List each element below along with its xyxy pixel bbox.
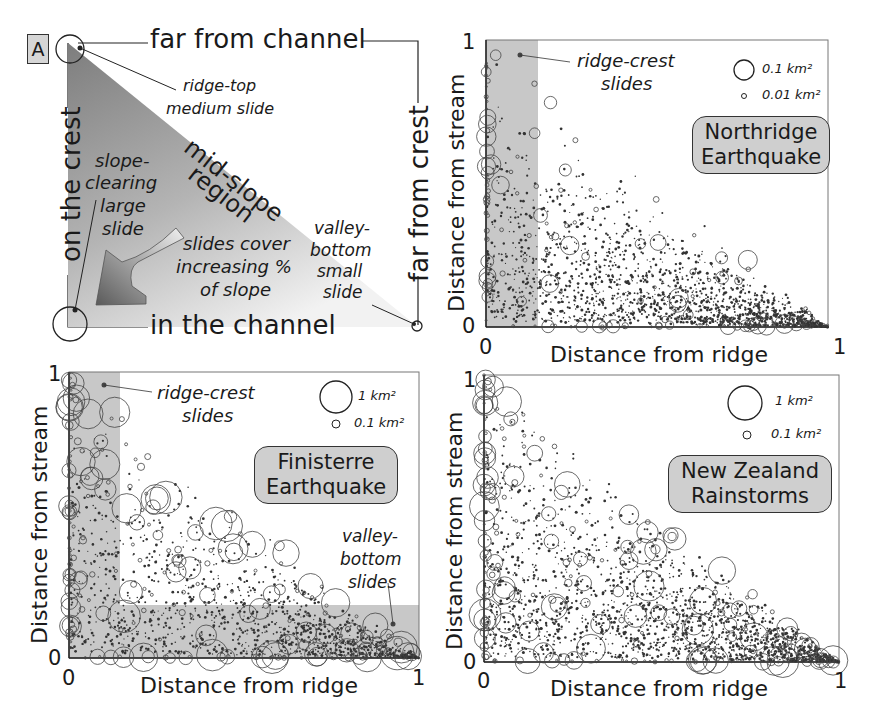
fi-xlabel: Distance from ridge <box>140 673 358 698</box>
nr-annotation-2: slides <box>601 73 652 94</box>
nz-ytick-0: 0 <box>463 650 476 674</box>
nz-title-box: New Zealand Rainstorms <box>668 455 832 513</box>
ridge-top-label-2: medium slide <box>166 99 274 118</box>
nz-title-2: Rainstorms <box>675 484 825 509</box>
fi-legend-large: 1 km² <box>358 388 396 403</box>
nr-annotation-1: ridge-crest <box>577 50 675 71</box>
fi-annotation-2: slides <box>182 405 233 426</box>
panel-tag: A <box>27 34 49 64</box>
nz-xlabel: Distance from ridge <box>550 676 768 701</box>
slope-clearing-label-3: large <box>100 195 146 216</box>
nr-xtick-1: 1 <box>833 335 846 359</box>
slope-clearing-label-1: slope- <box>95 150 149 171</box>
valley-bottom-label-4: slide <box>323 282 363 302</box>
fi-title-2: Earthquake <box>261 475 391 500</box>
fi-title-1: Finisterre <box>261 450 391 475</box>
nz-legend-large: 1 km² <box>775 393 813 408</box>
fi-ytick-0: 0 <box>48 646 61 670</box>
cover-label-2: increasing % <box>176 256 292 277</box>
valley-bottom-label-3: small <box>317 261 362 281</box>
slope-clearing-label-2: clearing <box>85 172 157 193</box>
fi-ytick-1: 1 <box>48 362 61 386</box>
nr-title-2: Earthquake <box>699 145 823 170</box>
legend-large-icon <box>734 60 754 80</box>
fi-annotation2-1: valley- <box>342 526 398 546</box>
fi-legend-small: 0.1 km² <box>354 415 404 430</box>
fi-title-box: Finisterre Earthquake <box>254 446 398 504</box>
cover-label-3: of slope <box>200 279 271 300</box>
nr-xtick-0: 0 <box>479 335 492 359</box>
top-label: far from channel <box>150 24 366 54</box>
nz-xtick-1: 1 <box>834 669 847 693</box>
nz-ylabel: Distance from stream <box>442 412 467 650</box>
nr-title-box: Northridge Earthquake <box>692 116 830 174</box>
valley-bottom-label-1: valley- <box>314 218 370 238</box>
fi-annotation2-2: bottom <box>340 549 401 569</box>
legend-large-icon <box>728 386 762 420</box>
nr-ytick-0: 0 <box>462 314 475 338</box>
nr-legend-small: 0.01 km² <box>762 87 820 102</box>
right-label: far from crest <box>404 105 434 282</box>
nz-title-1: New Zealand <box>675 459 825 484</box>
nr-legend-large: 0.1 km² <box>762 61 812 76</box>
nz-ytick-1: 1 <box>463 368 476 392</box>
fi-xtick-0: 0 <box>62 666 75 690</box>
bottom-label: in the channel <box>150 310 336 340</box>
nr-xlabel: Distance from ridge <box>550 342 768 367</box>
fi-xtick-1: 1 <box>412 666 425 690</box>
fi-annotation2-3: slides <box>348 572 396 592</box>
nr-ytick-1: 1 <box>462 30 475 54</box>
nr-ylabel: Distance from stream <box>444 74 469 312</box>
fi-ylabel: Distance from stream <box>27 406 52 644</box>
left-label: on the crest <box>56 106 86 262</box>
ridge-top-label-1: ridge-top <box>183 76 256 95</box>
fi-annotation-1: ridge-crest <box>157 382 255 403</box>
cover-label-1: slides cover <box>183 233 290 254</box>
nz-xtick-0: 0 <box>477 669 490 693</box>
valley-bottom-label-2: bottom <box>310 240 371 260</box>
slope-clearing-label-4: slide <box>102 218 144 239</box>
nz-legend-small: 0.1 km² <box>771 426 821 441</box>
legend-large-icon <box>320 381 352 413</box>
nr-title-1: Northridge <box>699 120 823 145</box>
